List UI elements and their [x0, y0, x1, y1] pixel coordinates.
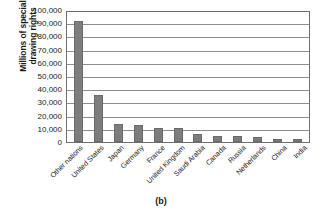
bar-slot — [287, 12, 307, 142]
bar-slot — [267, 12, 287, 142]
x-axis-tick-label: Canada — [204, 144, 227, 167]
y-axis-tick-label: 80,000 — [38, 33, 62, 41]
y-axis-tick-label: 60,000 — [38, 60, 62, 68]
bar — [94, 95, 103, 142]
bar-slot — [188, 12, 208, 142]
figure-caption: (b) — [0, 196, 322, 206]
bar-slot — [168, 12, 188, 142]
y-axis-tick-label: 70,000 — [38, 47, 62, 55]
y-axis-tick-label: 100,000 — [33, 7, 62, 15]
plot-area — [66, 11, 310, 143]
y-axis-tick-label: 0 — [58, 139, 62, 147]
x-axis-tick-label: India — [292, 144, 309, 161]
bar — [293, 139, 302, 142]
bar — [114, 124, 123, 142]
y-axis-tick-label: 20,000 — [38, 113, 62, 121]
bar — [193, 134, 202, 142]
bar-slot — [109, 12, 129, 142]
x-axis-tick-label: China — [269, 144, 288, 163]
y-axis-tick-label: 40,000 — [38, 86, 62, 94]
y-axis-tick-label: 30,000 — [38, 99, 62, 107]
y-axis-tick-label: 10,000 — [38, 126, 62, 134]
bar — [233, 136, 242, 142]
bar-slot — [228, 12, 248, 142]
bar — [154, 128, 163, 142]
bar — [74, 21, 83, 142]
y-axis-tick-labels: 100,00090,00080,00070,00060,00050,00040,… — [18, 11, 64, 143]
y-axis-tick-label: 90,000 — [38, 20, 62, 28]
x-axis-tick-labels: Other nationsUnited StatesJapanGermanyFr… — [66, 144, 310, 196]
bar-slot — [89, 12, 109, 142]
bar-series — [67, 12, 309, 142]
bar — [273, 139, 282, 142]
bar — [134, 125, 143, 142]
bar-slot — [128, 12, 148, 142]
y-axis-tick-label: 50,000 — [38, 73, 62, 81]
bar-slot — [208, 12, 228, 142]
bar — [174, 128, 183, 142]
bar-slot — [148, 12, 168, 142]
bar-slot — [69, 12, 89, 142]
bar-slot — [247, 12, 267, 142]
bar — [213, 136, 222, 142]
figure-panel-b: Millions of special drawing rights 100,0… — [0, 0, 322, 215]
bar — [253, 137, 262, 142]
